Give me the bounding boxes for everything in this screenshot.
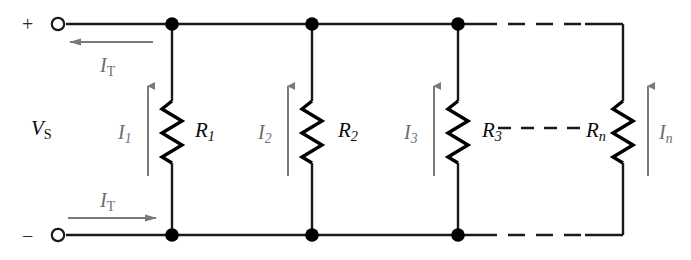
total-current-label-top: IT [100,55,115,75]
node-top-3 [451,17,465,31]
resistor-label-n: Rn [586,120,606,141]
branch-current-label-2: I2 [258,122,271,142]
total-current-symbol-top: I [100,54,107,76]
branch-current-label-1: I1 [118,122,131,142]
resistor-rn-zigzag [613,101,633,163]
resistor-r1-zigzag [162,101,182,163]
resistor-subscript-n: n [599,128,606,144]
branch-current-subscript-2: 2 [265,131,272,146]
branch-current-subscript-n: n [666,131,673,146]
source-voltage-subscript: S [44,126,52,142]
node-bottom-3 [451,228,465,242]
total-current-subscript-bottom: T [107,199,115,214]
resistor-symbol-1: R [195,118,208,142]
resistor-label-1: R1 [195,120,215,141]
positive-terminal-node [52,18,64,30]
resistor-symbol-2: R [338,118,351,142]
branch-3 [434,17,468,242]
branch-current-label-3: I3 [404,122,417,142]
node-top-1 [165,17,179,31]
branch-current-symbol-2: I [258,121,265,143]
branch-current-symbol-3: I [404,121,411,143]
total-current-symbol-bottom: I [100,189,107,211]
plus-sign: + [22,14,33,34]
resistor-symbol-n: R [586,118,599,142]
total-current-subscript-top: T [107,64,115,79]
branch-current-subscript-1: 1 [125,131,132,146]
branch-1 [148,17,182,242]
resistor-label-3: R3 [482,120,502,141]
resistor-subscript-2: 2 [351,128,358,144]
minus-sign: − [22,226,33,246]
negative-terminal-node [52,229,64,241]
parallel-circuit-figure: + − VS IT IT I1 R1 I2 R2 I3 R3 Rn In [0,0,691,260]
branch-current-symbol-1: I [118,121,125,143]
resistor-symbol-3: R [482,118,495,142]
resistor-label-2: R2 [338,120,358,141]
branch-current-label-n: In [659,122,672,142]
branch-2 [288,17,322,242]
branch-n [613,24,648,235]
source-voltage-symbol: V [31,116,44,140]
node-top-2 [305,17,319,31]
source-voltage-label: VS [31,118,52,139]
resistor-r2-zigzag [302,101,322,163]
node-bottom-2 [305,228,319,242]
resistor-subscript-1: 1 [208,128,215,144]
branch-current-subscript-3: 3 [411,131,418,146]
resistor-subscript-3: 3 [495,128,502,144]
resistor-r3-zigzag [448,101,468,163]
branch-current-symbol-n: I [659,121,666,143]
node-bottom-1 [165,228,179,242]
total-current-label-bottom: IT [100,190,115,210]
